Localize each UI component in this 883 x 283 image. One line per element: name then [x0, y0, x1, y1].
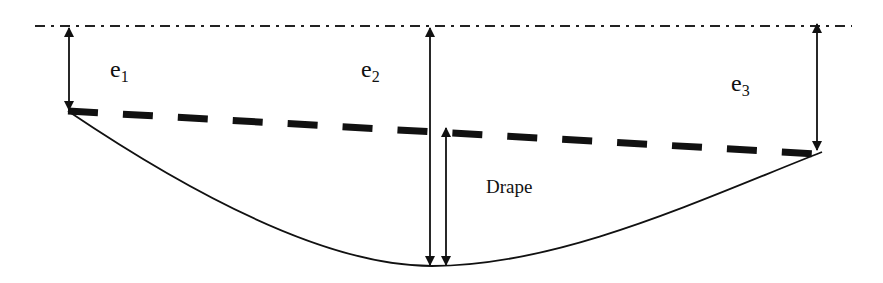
e2-label-sub: 2: [372, 68, 380, 85]
e2-label: e2: [361, 56, 380, 86]
chord-line: [68, 111, 818, 154]
cable-profile-curve: [68, 111, 822, 266]
e1-label-sub: 1: [121, 68, 129, 85]
drape-label: Drape: [486, 176, 532, 198]
diagram-svg: [0, 0, 883, 283]
e2-label-base: e: [361, 56, 372, 82]
e1-label: e1: [110, 56, 129, 86]
diagram-canvas: e1 e2 e3 Drape: [0, 0, 883, 283]
e1-label-base: e: [110, 56, 121, 82]
e3-label-base: e: [731, 70, 742, 96]
e3-label-sub: 3: [742, 82, 750, 99]
e3-label: e3: [731, 70, 750, 100]
